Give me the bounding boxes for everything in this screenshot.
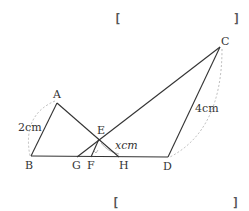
- label-d: D: [163, 160, 172, 173]
- label-f: F: [87, 159, 95, 172]
- segment-ef: [91, 139, 99, 157]
- label-e: E: [97, 124, 105, 137]
- label-a: A: [52, 88, 62, 101]
- label-h: H: [119, 159, 129, 172]
- label-b: B: [25, 159, 33, 172]
- answer-bracket-open-1: [: [114, 12, 121, 26]
- measure-ab: 2cm: [18, 121, 42, 134]
- angle-mark: [94, 150, 98, 153]
- segment-bd: [31, 156, 168, 157]
- geometry-diagram: [ ] A B G F H D C E 2cm 4cm xcm [ ]: [0, 0, 249, 211]
- answer-bracket-close-2: ]: [232, 196, 239, 210]
- label-g: G: [72, 159, 81, 172]
- label-c: C: [221, 35, 229, 48]
- answer-bracket-close-1: ]: [233, 12, 240, 26]
- answer-bracket-open-2: [: [112, 196, 119, 210]
- measure-cd: 4cm: [195, 102, 219, 115]
- measure-ef: xcm: [115, 139, 138, 152]
